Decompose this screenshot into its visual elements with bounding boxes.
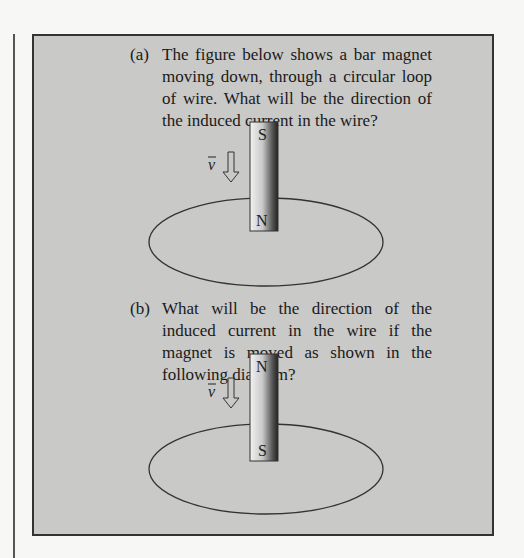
velocity-arrow-b-icon bbox=[223, 378, 239, 408]
magnet-b-top-pole: N bbox=[256, 358, 268, 375]
magnet-a-top-pole: S bbox=[258, 126, 267, 143]
velocity-arrow-a-icon bbox=[223, 152, 239, 182]
magnet-b-bottom-pole: S bbox=[258, 442, 267, 459]
magnet-a-bottom-pole: N bbox=[256, 212, 268, 229]
figure-b: N S v bbox=[149, 354, 383, 514]
problem-box: (a) The figure below shows a bar magnet … bbox=[32, 34, 494, 536]
diagrams: S N v N S v bbox=[34, 36, 496, 538]
margin-rule bbox=[13, 34, 15, 558]
velocity-label-a: v bbox=[208, 156, 216, 173]
figure-a: S N v bbox=[149, 122, 383, 286]
velocity-label-b: v bbox=[208, 383, 216, 400]
